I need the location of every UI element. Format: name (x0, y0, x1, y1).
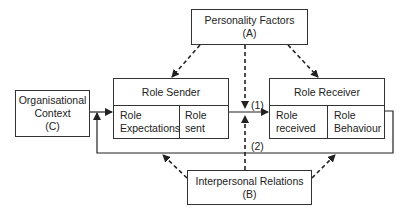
role-receiver-node: Role Receiver Role received Role Behavio… (269, 78, 385, 139)
node-label: Personality Factors (205, 14, 295, 27)
edge-label-1: (1) (251, 99, 264, 111)
node-label: Interpersonal Relations (196, 175, 304, 188)
cell-label: Role (276, 109, 327, 122)
cell-label: Role sent (185, 109, 228, 135)
dashed-arrow-b-to-feedback-right (312, 155, 335, 178)
node-label: Context (34, 107, 70, 120)
personality-factors-node: Personality Factors (A) (191, 9, 308, 45)
role-received-cell: Role received (270, 105, 328, 138)
node-label: Organisational (19, 94, 87, 107)
role-sender-node: Role Sender Role Expectations Role sent (113, 78, 229, 139)
role-receiver-title: Role Receiver (270, 79, 384, 105)
dashed-arrow-a-to-sender (172, 45, 200, 77)
node-label: (C) (45, 120, 60, 133)
edge-label-2: (2) (251, 140, 264, 152)
role-sent-cell: Role sent (180, 105, 228, 138)
dashed-arrow-a-to-receiver (288, 45, 318, 77)
cell-label: Expectations (120, 122, 179, 135)
dashed-arrow-b-to-feedback-left (163, 155, 187, 178)
cell-label: Role (334, 109, 384, 122)
interpersonal-relations-node: Interpersonal Relations (B) (187, 170, 312, 205)
organisational-context-node: Organisational Context (C) (15, 90, 90, 137)
cell-label: Behaviour (334, 122, 384, 135)
cell-label: Role (120, 109, 179, 122)
cell-label: received (276, 122, 327, 135)
node-label: (A) (243, 27, 257, 40)
role-behaviour-cell: Role Behaviour (328, 105, 384, 138)
role-expectations-cell: Role Expectations (114, 105, 180, 138)
role-sender-title: Role Sender (114, 79, 228, 105)
node-label: (B) (243, 188, 257, 201)
